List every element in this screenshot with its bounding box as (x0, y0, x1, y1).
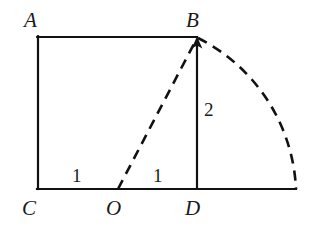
vertex-label-B: B (186, 10, 199, 31)
diagram-canvas (0, 0, 310, 231)
vertex-label-O: O (106, 198, 121, 219)
vertex-label-A: A (24, 10, 37, 31)
vertex-label-D: D (185, 198, 200, 219)
measure-label-CO: 1 (72, 166, 82, 185)
vertex-label-C: C (22, 198, 36, 219)
measure-label-OD: 1 (153, 166, 163, 185)
geometry-figure: A B C O D 1 1 2 (0, 0, 310, 231)
measure-label-BD: 2 (204, 100, 214, 119)
